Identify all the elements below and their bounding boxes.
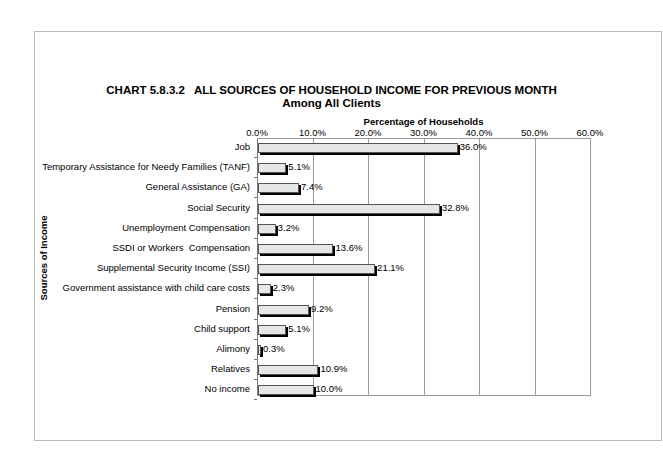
bar-row: Government assistance with child care co… (257, 279, 590, 299)
bar-row: Relatives10.9% (257, 360, 590, 380)
value-label: 2.3% (273, 282, 295, 293)
value-label: 3.2% (278, 222, 300, 233)
bar-row: Temporary Assistance for Needy Families … (257, 158, 590, 178)
category-label: No income (205, 383, 250, 394)
y-axis-title: Sources of Income (38, 216, 49, 301)
bar-row: Alimony0.3% (257, 340, 590, 360)
x-tick-label: 20.0% (355, 127, 382, 138)
category-label: Supplemental Security Income (SSI) (97, 262, 250, 273)
value-label: 10.0% (316, 383, 343, 394)
bar (258, 325, 286, 335)
x-axis-title: Percentage of Households (257, 116, 590, 127)
x-tick-label: 0.0% (246, 127, 268, 138)
bar (258, 224, 276, 234)
value-label: 5.1% (288, 323, 310, 334)
category-label: SSDI or Workers Compensation (112, 242, 250, 253)
value-label: 5.1% (288, 161, 310, 172)
bar-row: Social Security32.8% (257, 199, 590, 219)
bar (258, 143, 458, 153)
category-label: Job (235, 141, 250, 152)
category-label: Alimony (216, 343, 250, 354)
x-tick-label: 30.0% (410, 127, 437, 138)
value-label: 13.6% (335, 242, 362, 253)
category-label: Pension (216, 303, 250, 314)
category-label: General Assistance (GA) (145, 181, 250, 192)
bar (258, 385, 314, 395)
bar (258, 345, 261, 355)
plot-area: Job36.0%Temporary Assistance for Needy F… (257, 138, 591, 396)
value-label: 7.4% (301, 181, 323, 192)
bar-row: Job36.0% (257, 138, 590, 158)
value-label: 21.1% (377, 262, 404, 273)
category-label: Temporary Assistance for Needy Families … (42, 161, 250, 172)
bar-row: Unemployment Compensation3.2% (257, 219, 590, 239)
chart-title: CHART 5.8.3.2 ALL SOURCES OF HOUSEHOLD I… (0, 84, 663, 96)
bar-row: Pension9.2% (257, 300, 590, 320)
bar (258, 365, 318, 375)
bar-row: General Assistance (GA)7.4% (257, 178, 590, 198)
bar (258, 244, 333, 254)
category-label: Child support (194, 323, 250, 334)
category-label: Government assistance with child care co… (63, 282, 250, 293)
bar (258, 284, 271, 294)
value-label: 10.9% (320, 363, 347, 374)
x-tick-label: 50.0% (521, 127, 548, 138)
value-label: 9.2% (311, 303, 333, 314)
bar-row: SSDI or Workers Compensation13.6% (257, 239, 590, 259)
x-tick-label: 10.0% (299, 127, 326, 138)
bar-row: Supplemental Security Income (SSI)21.1% (257, 259, 590, 279)
x-tick-label: 60.0% (577, 127, 604, 138)
value-label: 36.0% (460, 141, 487, 152)
bar-row: Child support5.1% (257, 320, 590, 340)
value-label: 0.3% (263, 343, 285, 354)
category-label: Social Security (187, 202, 250, 213)
y-tick-mark (254, 399, 257, 400)
bar (258, 163, 286, 173)
category-label: Unemployment Compensation (122, 222, 250, 233)
category-label: Relatives (211, 363, 250, 374)
bar (258, 264, 375, 274)
bar (258, 305, 309, 315)
bar-row: No income10.0% (257, 380, 590, 400)
chart-subtitle: Among All Clients (0, 97, 663, 109)
bar (258, 183, 299, 193)
bar (258, 204, 440, 214)
x-tick-label: 40.0% (466, 127, 493, 138)
value-label: 32.8% (442, 202, 469, 213)
